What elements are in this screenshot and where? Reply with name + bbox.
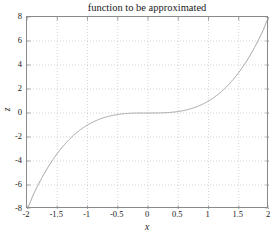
chart-title: function to be approximated bbox=[26, 1, 268, 14]
x-tick-label: 2 bbox=[253, 210, 278, 219]
x-tick-label: 0 bbox=[132, 210, 162, 219]
y-tick-label: 8 bbox=[0, 12, 22, 21]
x-tick-label: -1 bbox=[72, 210, 102, 219]
x-tick-label: 1.5 bbox=[223, 210, 253, 219]
plot-axes-box bbox=[26, 16, 268, 208]
x-axis-label: x bbox=[26, 222, 268, 233]
y-tick-label: -2 bbox=[0, 132, 22, 141]
x-tick-label: -0.5 bbox=[102, 210, 132, 219]
x-tick-label: 0.5 bbox=[162, 210, 192, 219]
x-tick-label: -1.5 bbox=[41, 210, 71, 219]
plot-svg bbox=[27, 17, 269, 209]
figure-canvas: function to be approximated 86420-2-4-6-… bbox=[0, 0, 278, 235]
y-tick-label: 6 bbox=[0, 36, 22, 45]
y-tick-label: -4 bbox=[0, 156, 22, 165]
y-tick-label: 4 bbox=[0, 60, 22, 69]
x-tick-label: -2 bbox=[11, 210, 41, 219]
y-tick-label: 2 bbox=[0, 84, 22, 93]
y-tick-label: -6 bbox=[0, 180, 22, 189]
x-tick-label: 1 bbox=[193, 210, 223, 219]
y-axis-label: z bbox=[2, 99, 13, 121]
